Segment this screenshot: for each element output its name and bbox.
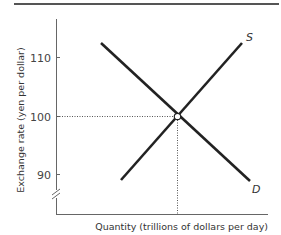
x-axis-title: Quantity (trillions of dollars per day) <box>95 221 268 232</box>
y-tick-label-110: 110 <box>30 52 51 65</box>
foreign-exchange-chart: 110 100 90 Exchange rate (yen per dollar… <box>0 0 281 235</box>
y-tick-label-90: 90 <box>37 169 51 182</box>
supply-curve <box>121 43 242 180</box>
y-axis-title: Exchange rate (yen per dollar) <box>15 47 26 192</box>
demand-curve <box>101 43 250 181</box>
equilibrium-point <box>174 113 180 119</box>
y-tick-label-100: 100 <box>30 111 51 124</box>
axis-break-icon <box>52 189 61 199</box>
demand-label: D <box>252 183 260 196</box>
supply-label: S <box>246 31 253 44</box>
